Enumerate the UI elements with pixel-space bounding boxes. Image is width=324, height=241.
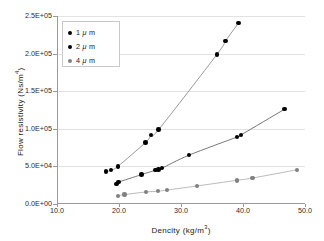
x-tick-label: 40.0 (223, 207, 263, 215)
legend-item-4um: 4 μ m (68, 56, 95, 66)
legend-label: 2 μ m (76, 43, 95, 51)
y-tick-label: 2.5E+05 (0, 12, 52, 20)
x-tick-label: 30.0 (161, 207, 201, 215)
flow-resistivity-chart: 0.0E+005.0E+041.0E+051.5E+052.0E+052.5E+… (0, 0, 324, 241)
y-tick-label: 1.5E+05 (0, 87, 52, 95)
x-tick-mark (57, 204, 58, 207)
x-tick-label: 10.0 (37, 207, 77, 215)
gridline (58, 129, 305, 130)
y-tick-mark (53, 204, 57, 205)
legend-marker-icon (68, 45, 72, 49)
gridline (58, 166, 305, 167)
x-tick-mark (119, 204, 120, 207)
y-title-superscript: 4 (14, 71, 20, 74)
y-tick-label: 5.0E+04 (0, 162, 52, 170)
legend-marker-icon (68, 31, 72, 35)
gridline (58, 16, 305, 17)
legend-item-1um: 1 μ m (68, 28, 95, 38)
legend-label: 1 μ m (76, 29, 95, 37)
legend-item-2um: 2 μ m (68, 42, 95, 52)
y-tick-label: 0.0E+00 (0, 200, 52, 208)
gridline (58, 91, 305, 92)
x-tick-mark (305, 204, 306, 207)
y-axis-title: Flow resistivity (Ns/m4) (12, 32, 26, 192)
x-tick-label: 50.0 (285, 207, 324, 215)
x-tick-mark (243, 204, 244, 207)
y-tick-label: 2.0E+05 (0, 50, 52, 58)
x-axis-title: Dencity (kg/m3) (57, 222, 305, 236)
legend-marker-icon (68, 59, 72, 63)
legend-label: 4 μ m (76, 57, 95, 65)
x-tick-label: 20.0 (99, 207, 139, 215)
legend: 1 μ m2 μ m4 μ m (62, 21, 120, 67)
x-title-superscript: 3 (204, 224, 207, 230)
x-tick-mark (181, 204, 182, 207)
y-tick-label: 1.0E+05 (0, 125, 52, 133)
